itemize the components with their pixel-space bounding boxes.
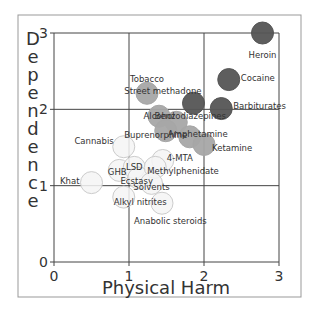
scatter-chart: HeroinCocaineBarbituratesStreet methadon… bbox=[0, 0, 310, 322]
point-label: Methylphenidate bbox=[147, 166, 219, 176]
y-tick-label: 0 bbox=[39, 254, 48, 270]
data-point bbox=[218, 69, 240, 91]
point-label: Amphetamine bbox=[168, 129, 228, 139]
point-label: Street methadone bbox=[124, 86, 201, 96]
point-label: Alkyl nitrites bbox=[114, 197, 167, 207]
point-label: Benzodiazepines bbox=[154, 111, 226, 121]
x-axis-label: Physical Harm bbox=[102, 277, 230, 298]
point-label: Barbiturates bbox=[233, 101, 286, 111]
y-tick-label: 3 bbox=[39, 25, 48, 41]
point-label: Cannabis bbox=[74, 136, 114, 146]
point-label: Tobacco bbox=[129, 74, 164, 84]
x-tick-label: 3 bbox=[275, 268, 284, 284]
point-label: Solvents bbox=[133, 182, 170, 192]
point-label: Ketamine bbox=[212, 143, 252, 153]
point-label: Cocaine bbox=[241, 73, 275, 83]
point-label: Heroin bbox=[249, 50, 277, 60]
point-label: Anabolic steroids bbox=[134, 216, 207, 226]
chart-canvas: HeroinCocaineBarbituratesStreet methadon… bbox=[0, 0, 310, 322]
y-axis-label-char: e bbox=[27, 190, 38, 211]
point-label: Khat bbox=[60, 176, 80, 186]
data-point bbox=[81, 172, 103, 194]
point-label: 4-MTA bbox=[167, 153, 193, 163]
y-tick-label: 2 bbox=[39, 101, 48, 117]
y-tick-label: 1 bbox=[39, 178, 48, 194]
point-label: LSD bbox=[126, 162, 143, 172]
data-point bbox=[252, 22, 274, 44]
x-tick-label: 0 bbox=[50, 268, 59, 284]
